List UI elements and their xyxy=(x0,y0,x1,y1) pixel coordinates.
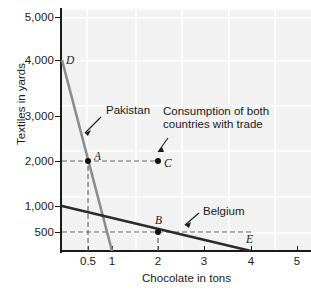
arrowhead-pakistan xyxy=(85,130,91,136)
data-point-label-c: C xyxy=(164,157,172,169)
data-point-marker-a xyxy=(85,158,91,164)
leader-arrow-belgium xyxy=(185,213,199,225)
chart-plot-svg xyxy=(0,0,311,293)
data-point-marker-c xyxy=(155,158,161,164)
annotation-consumption-line1: Consumption of both xyxy=(163,105,269,118)
annotation-pakistan: Pakistan xyxy=(106,104,150,117)
data-point-label-d: D xyxy=(66,54,74,66)
data-point-marker-b xyxy=(155,229,161,235)
data-point-label-e: E xyxy=(246,233,253,245)
data-point-label-b: B xyxy=(155,214,162,226)
annotation-belgium: Belgium xyxy=(203,205,245,218)
annotation-consumption-line2: countries with trade xyxy=(163,118,263,131)
series-line-pakistan xyxy=(62,60,112,251)
leader-arrow-pakistan xyxy=(85,117,101,133)
economics-ppf-chart: 5,000 4,000 3,000 2,000 1,000 500 0.5 1 … xyxy=(0,0,311,293)
data-point-label-a: A xyxy=(94,150,101,162)
